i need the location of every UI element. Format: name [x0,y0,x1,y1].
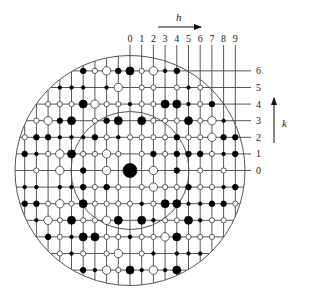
medium-spot [233,184,239,190]
small-open-spot [81,151,86,156]
strong-spot [173,100,181,108]
strong-spot [161,200,169,208]
small-open-spot [116,185,121,190]
h-tick-label: 2 [151,33,156,44]
large-open-spot [102,67,110,75]
weak-filled-spot [198,252,202,256]
small-open-spot [116,268,121,273]
h-axis-label: h [176,11,182,23]
weak-filled-spot [70,136,74,140]
strong-spot [173,233,181,241]
h-axis-arrow: h [158,11,201,27]
strong-spot [68,216,76,224]
weak-filled-spot [58,86,62,90]
large-open-spot [114,249,122,257]
small-open-spot [233,201,238,206]
strong-spot [185,216,193,224]
strong-spot [68,150,76,158]
medium-spot [174,68,180,74]
small-open-spot [151,102,156,107]
strong-spot [114,117,122,125]
small-open-spot [92,151,97,156]
weak-filled-spot [152,252,156,256]
small-open-spot [198,168,203,173]
small-open-spot [92,201,97,206]
weak-filled-spot [222,119,226,123]
small-open-spot [46,151,51,156]
small-open-spot [116,201,121,206]
small-open-spot [139,85,144,90]
small-open-spot [186,135,191,140]
medium-spot [34,135,40,141]
large-open-spot [149,183,157,191]
weak-filled-spot [187,102,191,106]
strong-spot [161,100,169,108]
small-open-spot [174,185,179,190]
large-open-spot [56,150,64,158]
small-open-spot [104,135,109,140]
large-open-spot [102,216,110,224]
small-open-spot [139,68,144,73]
weak-filled-spot [70,252,74,256]
small-open-spot [92,218,97,223]
k-axis-arrow: k [274,98,288,143]
h-tick-label: 8 [221,33,226,44]
small-open-spot [139,102,144,107]
medium-spot [174,151,180,157]
weak-filled-spot [23,185,27,189]
medium-spot [45,135,51,141]
small-open-spot [198,135,203,140]
large-open-spot [208,133,216,141]
small-open-spot [46,102,51,107]
weak-filled-spot [58,136,62,140]
h-tick-label: 5 [186,33,191,44]
weak-filled-spot [175,252,179,256]
small-open-spot [92,118,97,123]
large-open-spot [102,166,110,174]
small-open-spot [163,218,168,223]
weak-filled-spot [187,202,191,206]
weak-filled-spot [105,86,109,90]
small-open-spot [57,234,62,239]
weak-filled-spot [70,86,74,90]
small-open-spot [221,168,226,173]
weak-filled-spot [35,185,39,189]
large-open-spot [44,216,52,224]
small-open-spot [163,185,168,190]
medium-spot [174,135,180,141]
medium-spot [233,135,239,141]
medium-spot [174,168,180,174]
large-open-spot [208,117,216,125]
h-tick-label: 0 [128,33,133,44]
medium-spot [151,151,157,157]
small-open-spot [139,251,144,256]
k-tick-label: 1 [256,148,261,159]
weak-filled-spot [93,268,97,272]
large-open-spot [114,83,122,91]
medium-spot [221,135,227,141]
small-open-spot [198,185,203,190]
weak-filled-spot [152,219,156,223]
large-open-spot [102,266,110,274]
large-open-spot [44,117,52,125]
medium-spot [80,267,86,273]
small-open-spot [34,118,39,123]
strong-spot [173,200,181,208]
k-tick-label: 6 [256,65,261,76]
medium-spot [186,184,192,190]
small-open-spot [92,68,97,73]
small-open-spot [139,151,144,156]
medium-spot [22,151,28,157]
strong-spot [138,117,146,125]
small-open-spot [139,135,144,140]
strong-spot [91,233,99,241]
small-open-spot [198,234,203,239]
k-tick-label: 0 [256,165,261,176]
strong-spot [126,67,134,75]
h-tick-label: 9 [233,33,238,44]
k-tick-label: 3 [256,115,261,126]
medium-spot [92,135,98,141]
large-open-spot [102,150,110,158]
strong-spot [68,117,76,125]
medium-spot [116,68,122,74]
